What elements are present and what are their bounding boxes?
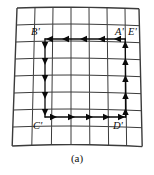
grid-vline-5 [107,8,109,146]
arrowhead-bottom-1 [50,114,57,120]
arrowhead-left-3 [42,75,48,82]
circuit-path [45,39,126,117]
label-b-prime: B' [31,26,40,37]
arrowhead-left-4 [42,92,48,99]
arrowhead-left-2 [42,58,48,65]
arrowhead-left-5 [42,109,48,116]
label-e-prime: E' [127,26,137,37]
distorted-grid-figure: B' A' E' C' D' [0,0,154,175]
label-a-prime: A' [114,26,124,37]
figure-container: B' A' E' C' D' (a) [0,0,154,175]
arrowhead-right-5 [122,108,128,115]
grid-vline-4 [89,7,90,144]
arrowhead-left-1 [42,42,48,49]
label-d-prime: D' [112,120,124,131]
grid-vline-0 [12,8,17,146]
figure-caption: (a) [0,152,154,164]
grid-vline-2 [51,7,53,145]
grid-vline-7 [139,9,142,147]
label-c-prime: C' [33,120,43,131]
arrowhead-bottom-4 [103,114,110,120]
